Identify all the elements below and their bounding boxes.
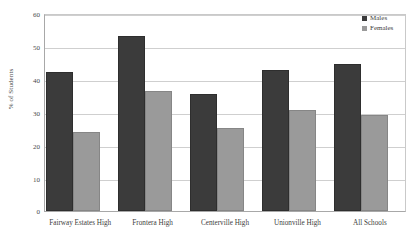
- bar-group-inner: [118, 36, 172, 211]
- bar-group-inner: [334, 64, 388, 211]
- y-tick-label-50: 50: [33, 44, 40, 52]
- bar-group-inner: [46, 72, 100, 211]
- y-tick-label-0: 0: [37, 208, 41, 216]
- legend-item-males: Males: [362, 14, 393, 24]
- y-tick-label-30: 30: [33, 110, 40, 118]
- bar-females: [361, 115, 388, 211]
- legend-label-females: Females: [370, 24, 393, 34]
- legend-item-females: Females: [362, 24, 393, 34]
- bar-group-inner: [190, 94, 244, 211]
- x-axis-label: Fairway Estates High: [44, 219, 116, 227]
- bar-males: [334, 64, 361, 211]
- y-axis-title: % of Students: [7, 54, 15, 124]
- legend-swatch-males-icon: [362, 16, 367, 21]
- bar-group: [189, 15, 261, 211]
- bar-chart: % of Students 60 50 40 30 20 10 0: [0, 0, 414, 238]
- x-axis-label: Frontera High: [116, 219, 188, 227]
- x-axis-labels: Fairway Estates HighFrontera HighCenterv…: [44, 219, 406, 227]
- bar-males: [190, 94, 217, 211]
- bar-group: [333, 15, 405, 211]
- x-axis-label: Centerville High: [189, 219, 261, 227]
- y-tick-label-20: 20: [33, 143, 40, 151]
- bar-females: [73, 132, 100, 211]
- bar-males: [118, 36, 145, 211]
- x-axis-label: All Schools: [334, 219, 406, 227]
- bar-females: [217, 128, 244, 211]
- bar-groups: [45, 15, 405, 211]
- x-axis-label: Unionville High: [261, 219, 333, 227]
- bar-group: [261, 15, 333, 211]
- bar-females: [145, 91, 172, 211]
- bar-males: [262, 70, 289, 211]
- bar-group: [117, 15, 189, 211]
- bar-group: [45, 15, 117, 211]
- bar-males: [46, 72, 73, 211]
- bar-females: [289, 110, 316, 211]
- y-tick-label-10: 10: [33, 176, 40, 184]
- y-tick-label-40: 40: [33, 77, 40, 85]
- legend: Males Females: [362, 14, 393, 33]
- legend-label-males: Males: [370, 14, 387, 24]
- bar-group-inner: [262, 70, 316, 211]
- legend-swatch-females-icon: [362, 26, 367, 31]
- y-tick-label-60: 60: [33, 11, 40, 19]
- plot-area: 60 50 40 30 20 10 0: [44, 14, 406, 212]
